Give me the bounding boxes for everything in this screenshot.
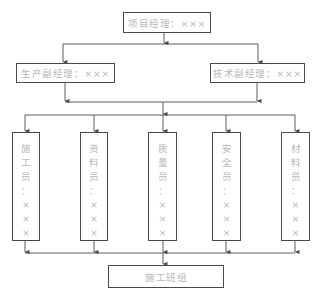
dept-char: × [292, 226, 300, 240]
project-manager-label: 项目经理：××× [128, 16, 206, 30]
dept-char: × [22, 212, 30, 226]
dept-char: 员 [291, 170, 301, 184]
dept-char: 员 [222, 170, 232, 184]
department-box-safety: 安 全 员 ： × × × [212, 132, 241, 241]
construction-team-label: 施工班组 [145, 270, 187, 284]
dept-char: 施 [21, 142, 31, 156]
dept-char: × [223, 226, 231, 240]
dept-char: ： [158, 184, 168, 198]
dept-char: 工 [21, 156, 31, 170]
dept-char: ： [291, 184, 301, 198]
dept-char: 料 [291, 156, 301, 170]
dept-char: 员 [89, 170, 99, 184]
dept-char: ： [222, 184, 232, 198]
dept-char: × [159, 212, 167, 226]
dept-char: × [22, 198, 30, 212]
project-manager-box: 项目经理：××× [123, 12, 211, 33]
department-box-materials: 材 料 员 ： × × × [281, 132, 310, 241]
dept-char: ： [89, 184, 99, 198]
dept-char: 安 [222, 142, 232, 156]
dept-char: × [159, 226, 167, 240]
dept-char: × [90, 226, 98, 240]
dept-char: × [22, 226, 30, 240]
dept-char: × [223, 212, 231, 226]
dept-char: × [223, 198, 231, 212]
construction-team-box: 施工班组 [108, 265, 224, 288]
dept-char: 量 [158, 156, 168, 170]
dept-char: 质 [158, 142, 168, 156]
dept-char: × [292, 212, 300, 226]
department-box-quality: 质 量 员 ： × × × [148, 132, 177, 241]
dept-char: × [292, 198, 300, 212]
dept-char: 料 [89, 156, 99, 170]
dept-char: × [90, 198, 98, 212]
dept-char: × [90, 212, 98, 226]
dept-char: × [159, 198, 167, 212]
dept-char: 全 [222, 156, 232, 170]
dept-char: 材 [291, 142, 301, 156]
department-box-construction: 施 工 员 ： × × × [12, 132, 40, 241]
dept-char: 员 [21, 170, 31, 184]
dept-char: 资 [89, 142, 99, 156]
org-chart: 项目经理：××× 生产副经理：××× 技术副经理：××× 施 工 员 ： × ×… [0, 0, 321, 296]
dept-char: ： [21, 184, 31, 198]
department-box-documents: 资 料 员 ： × × × [80, 132, 108, 241]
production-deputy-label: 生产副经理：××× [21, 66, 109, 80]
technical-deputy-label: 技术副经理：××× [213, 66, 301, 80]
production-deputy-box: 生产副经理：××× [16, 63, 115, 83]
dept-char: 员 [158, 170, 168, 184]
technical-deputy-box: 技术副经理：××× [210, 63, 305, 83]
